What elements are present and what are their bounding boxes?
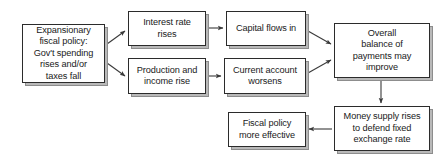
edge-policy-to-production — [107, 63, 125, 76]
edge-capital-flows-to-balance — [308, 31, 331, 44]
node-expansionary-fiscal-policy: Expansionary fiscal policy: Gov't spendi… — [22, 24, 105, 83]
node-overall-balance-of-payments: Overall balance of payments may improve — [334, 23, 430, 78]
edge-current-account-to-balance — [308, 60, 331, 73]
node-production-and-income-rise: Production and income rise — [128, 58, 206, 94]
node-fiscal-policy-more-effective: Fiscal policy more effective — [228, 112, 306, 147]
flowchart-diagram: Expansionary fiscal policy: Gov't spendi… — [0, 0, 446, 161]
node-money-supply-rises: Money supply rises to defend fixed excha… — [334, 106, 430, 151]
edge-policy-to-interest-rate — [107, 31, 125, 44]
node-capital-flows-in: Capital flows in — [226, 11, 306, 46]
node-current-account-worsens: Current account worsens — [224, 58, 306, 94]
node-interest-rate-rises: Interest rate rises — [128, 11, 206, 46]
